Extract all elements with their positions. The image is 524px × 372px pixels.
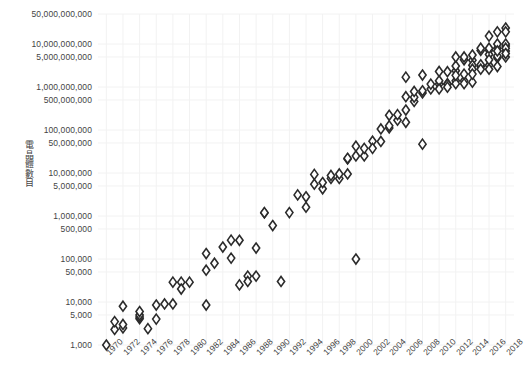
- y-axis-tick-label: 50,000,000,000: [0, 9, 92, 19]
- y-axis-tick-label: 10,000: [0, 297, 92, 307]
- data-point-marker: [344, 153, 351, 163]
- data-point-marker: [161, 299, 168, 309]
- data-point-marker: [485, 31, 492, 41]
- y-axis-tick-label: 5,000,000,000: [0, 52, 92, 62]
- data-point-marker: [111, 317, 118, 327]
- data-point-marker: [494, 27, 501, 37]
- y-axis-title: 電晶體數目: [22, 140, 34, 188]
- y-axis-tick-label: 1,000,000,000: [0, 82, 92, 92]
- data-point-marker: [369, 143, 376, 153]
- y-axis-tick-label: 50,000,000: [0, 138, 92, 148]
- data-point-marker: [119, 301, 126, 311]
- data-point-marker: [452, 52, 459, 62]
- y-axis-tick-label: 5,000: [0, 310, 92, 320]
- data-point-marker: [352, 254, 359, 264]
- data-point-marker: [444, 67, 451, 77]
- data-point-marker: [236, 280, 243, 290]
- footer-note: [8, 365, 268, 372]
- y-axis-tick-label: 10,000,000,000: [0, 39, 92, 49]
- data-point-marker: [144, 324, 151, 334]
- data-point-marker: [377, 136, 384, 146]
- data-point-marker: [236, 235, 243, 245]
- data-point-marker: [228, 253, 235, 263]
- data-point-marker: [219, 242, 226, 252]
- y-axis-tick-label: 1,000: [0, 340, 92, 350]
- data-point-marker: [203, 265, 210, 275]
- data-point-marker: [153, 314, 160, 324]
- data-point-marker: [169, 277, 176, 287]
- data-point-marker: [169, 299, 176, 309]
- data-point-marker: [311, 169, 318, 179]
- data-point-marker: [252, 243, 259, 253]
- data-point-marker: [277, 276, 284, 286]
- y-axis-tick-label: 10,000,000: [0, 168, 92, 178]
- y-axis-tick-label: 50,000: [0, 267, 92, 277]
- data-point-marker: [402, 72, 409, 82]
- data-point-marker: [419, 70, 426, 80]
- y-axis-tick-label: 500,000,000: [0, 95, 92, 105]
- data-point-marker: [228, 235, 235, 245]
- data-point-marker: [302, 202, 309, 212]
- data-point-marker: [211, 258, 218, 268]
- data-point-marker: [186, 277, 193, 287]
- y-axis-tick-label: 1,000,000: [0, 211, 92, 221]
- data-point-marker: [377, 124, 384, 134]
- data-point-marker: [344, 169, 351, 179]
- y-axis-tick-label: 100,000,000: [0, 125, 92, 135]
- data-point-marker: [252, 271, 259, 281]
- data-point-marker: [302, 192, 309, 202]
- data-point-marker: [402, 105, 409, 115]
- data-point-marker: [178, 284, 185, 294]
- y-axis-tick-label: 500,000: [0, 224, 92, 234]
- y-axis-tick-label: 5,000,000: [0, 181, 92, 191]
- data-point-marker: [436, 66, 443, 76]
- data-point-marker: [386, 110, 393, 120]
- data-point-marker: [419, 139, 426, 149]
- data-point-marker: [203, 249, 210, 259]
- y-axis-tick-label: 100,000: [0, 254, 92, 264]
- data-point-marker: [361, 143, 368, 153]
- data-point-marker: [494, 62, 501, 72]
- data-point-marker: [402, 117, 409, 127]
- data-point-marker: [294, 190, 301, 200]
- gridlines-group: [98, 14, 514, 345]
